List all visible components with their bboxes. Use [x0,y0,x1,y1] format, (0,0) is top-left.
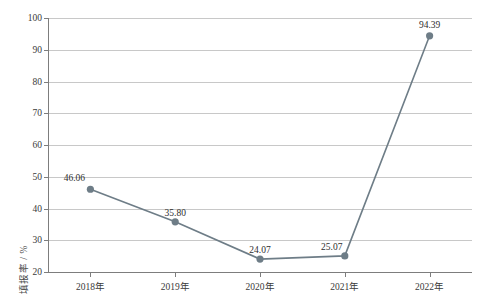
chart-root: 2030405060708090100 填报率 / % 2018年2019年20… [0,0,486,304]
data-point-label: 94.39 [419,20,440,30]
series-polyline [90,36,429,259]
data-series-line [0,0,486,304]
data-point-marker [426,32,433,39]
data-point-label: 35.80 [165,208,186,218]
data-point-marker [87,186,94,193]
data-point-marker [341,252,348,259]
data-point-label: 46.06 [64,173,85,183]
data-point-label: 24.07 [249,245,270,255]
data-point-label: 25.07 [321,242,342,252]
data-point-marker [256,255,263,262]
data-point-marker [172,218,179,225]
